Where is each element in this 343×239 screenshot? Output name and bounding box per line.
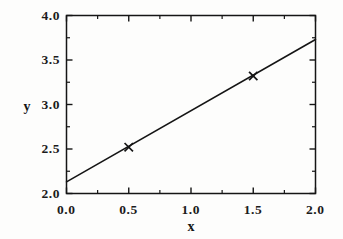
x-tick-label: 2.0 bbox=[306, 203, 325, 217]
axes-frame bbox=[67, 16, 316, 194]
y-axis-major-ticks bbox=[67, 16, 316, 194]
plot-canvas bbox=[0, 0, 343, 239]
chart-figure: 2.0 2.5 3.0 3.5 4.0 0.0 0.5 1.0 1.5 2.0 … bbox=[0, 0, 343, 239]
y-axis-title: y bbox=[24, 100, 31, 114]
x-tick-label: 0.5 bbox=[119, 203, 138, 217]
y-tick-label: 3.5 bbox=[42, 53, 61, 67]
x-tick-label: 1.0 bbox=[182, 203, 201, 217]
x-tick-label: 1.5 bbox=[244, 203, 263, 217]
x-axis-title: x bbox=[188, 220, 195, 234]
y-axis-minor-ticks bbox=[67, 38, 316, 172]
x-axis-major-ticks bbox=[67, 16, 316, 194]
y-tick-label: 2.0 bbox=[42, 187, 61, 201]
y-tick-label: 2.5 bbox=[42, 142, 61, 156]
y-tick-label: 4.0 bbox=[42, 9, 61, 23]
x-tick-label: 0.0 bbox=[57, 203, 76, 217]
series-line-path bbox=[67, 40, 316, 182]
x-axis-minor-ticks bbox=[98, 16, 285, 194]
y-tick-label: 3.0 bbox=[42, 98, 61, 112]
